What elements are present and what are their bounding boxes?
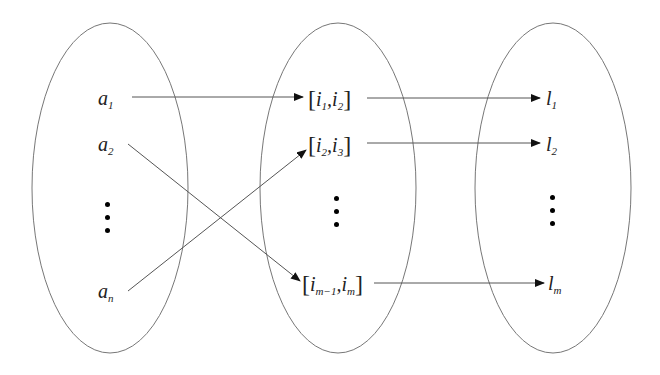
label-a2: a2 — [98, 134, 114, 157]
left-ellipsis-dots — [105, 202, 111, 241]
right-ellipsis-dots — [550, 195, 556, 234]
label-lm: lm — [548, 273, 562, 296]
diagram-canvas — [0, 0, 660, 375]
label-l2: l2 — [546, 134, 557, 157]
edge-an-i2i3 — [128, 150, 306, 291]
right-set-ellipse — [475, 23, 631, 353]
label-i2-i3: [i2,i3] — [308, 132, 351, 158]
edge-a2-im — [128, 144, 300, 281]
label-i1-i2: [i1,i2] — [308, 86, 351, 112]
label-l1: l1 — [546, 88, 557, 111]
label-an: an — [98, 281, 114, 304]
middle-ellipsis-dots — [334, 196, 340, 235]
label-a1: a1 — [98, 88, 114, 111]
label-im1-im: [im−1,im] — [302, 271, 363, 297]
middle-set-ellipse — [260, 23, 416, 353]
